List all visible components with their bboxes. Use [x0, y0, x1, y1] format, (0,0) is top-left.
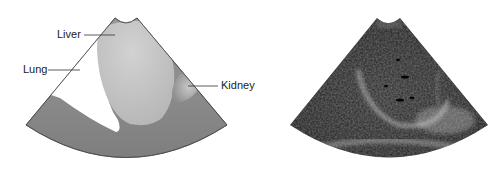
illustration-panel	[20, 10, 227, 158]
ultrasound-image-panel	[280, 10, 495, 178]
label-kidney: Kidney	[221, 79, 255, 91]
label-lung: Lung	[23, 63, 47, 75]
label-liver: Liver	[57, 28, 81, 40]
